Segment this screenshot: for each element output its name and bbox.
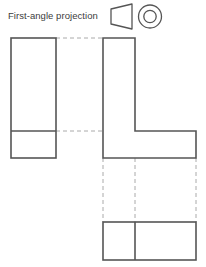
cone-end-view-inner-circle-icon	[144, 10, 156, 22]
technical-drawing-figure: First-angle projection	[0, 0, 206, 267]
cone-end-view-outer-circle-icon	[139, 5, 162, 28]
first-angle-projection-symbol	[111, 4, 162, 29]
cone-side-view-icon	[111, 4, 132, 29]
orthographic-projection-drawing	[0, 0, 206, 267]
left-side-view-outline	[11, 38, 56, 158]
front-view-l-shape-outline	[103, 38, 196, 158]
left-side-view	[11, 38, 56, 158]
bottom-view-outline	[103, 222, 196, 260]
front-view	[103, 38, 196, 158]
bottom-view	[103, 222, 196, 260]
